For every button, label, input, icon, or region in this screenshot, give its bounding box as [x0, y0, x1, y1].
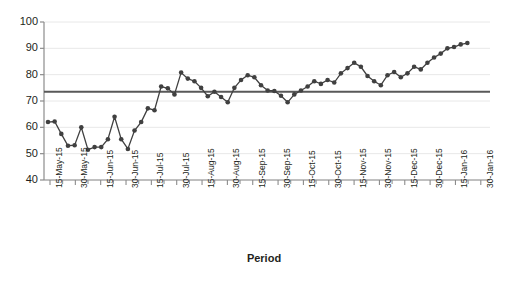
data-point	[332, 80, 337, 85]
data-point	[99, 145, 104, 150]
data-point	[199, 86, 204, 91]
data-point	[372, 79, 377, 84]
data-point	[325, 78, 330, 83]
y-axis-tick-label: 90	[8, 41, 38, 53]
data-point	[179, 70, 184, 75]
data-point	[279, 93, 284, 98]
x-axis-tick-label: 15-Nov-15	[358, 148, 368, 188]
data-point	[245, 73, 250, 78]
data-point	[146, 106, 151, 111]
x-axis-tick-label: 30-Aug-15	[231, 148, 241, 188]
data-point	[292, 92, 297, 97]
data-point	[359, 64, 364, 69]
line-chart: 405060708090100 15-May-1530-May-1515-Jun…	[0, 0, 528, 281]
data-point	[425, 61, 430, 66]
data-point	[225, 100, 230, 105]
y-axis-tick-label: 50	[8, 147, 38, 159]
y-axis-tick-label: 60	[8, 120, 38, 132]
data-point	[205, 94, 210, 99]
data-point	[385, 73, 390, 78]
data-point	[465, 41, 470, 46]
data-point	[232, 86, 237, 91]
data-point	[365, 74, 370, 79]
x-axis-tick-label: 30-May-15	[79, 147, 89, 188]
x-axis-tick-label: 15-Oct-15	[307, 150, 317, 188]
data-point	[59, 132, 64, 137]
data-point	[92, 145, 97, 150]
x-axis-tick-label: 15-Jul-15	[155, 153, 165, 188]
data-point	[139, 120, 144, 125]
data-point	[458, 42, 463, 47]
x-axis-tick-label: 15-May-15	[54, 147, 64, 188]
data-point	[352, 61, 357, 66]
data-point	[452, 45, 457, 50]
x-axis-tick-label: 30-Jul-15	[181, 153, 191, 188]
x-axis-tick-label: 30-Nov-15	[383, 148, 393, 188]
x-axis-tick-label: 15-Sep-15	[257, 148, 267, 188]
data-point	[132, 128, 137, 133]
data-point	[239, 78, 244, 83]
data-point	[319, 82, 324, 87]
x-axis-tick-label: 15-Dec-15	[409, 148, 419, 188]
data-point	[412, 64, 417, 69]
y-axis-tick-label: 100	[8, 15, 38, 27]
data-point	[252, 75, 257, 80]
x-axis-tick-label: 15-Jun-15	[105, 150, 115, 188]
data-point	[418, 67, 423, 72]
data-point	[285, 100, 290, 105]
data-point	[79, 125, 84, 130]
data-point	[185, 76, 190, 81]
data-point	[405, 71, 410, 76]
data-point	[445, 46, 450, 51]
x-axis-title: Period	[0, 252, 528, 264]
data-point	[152, 108, 157, 113]
y-axis-tick-label: 40	[8, 173, 38, 185]
x-axis-tick-label: 30-Dec-15	[434, 148, 444, 188]
y-axis-tick-label: 80	[8, 68, 38, 80]
data-point	[438, 51, 443, 56]
data-point	[265, 88, 270, 93]
data-point	[272, 89, 277, 94]
data-point	[379, 83, 384, 88]
data-point	[119, 137, 124, 142]
chart-plot-area	[0, 0, 528, 281]
data-point	[259, 83, 264, 88]
data-point	[66, 143, 71, 148]
data-point	[392, 70, 397, 75]
data-point	[112, 115, 117, 120]
data-point	[52, 119, 57, 124]
data-point	[46, 120, 51, 125]
x-axis-tick-label: 15-Jan-16	[459, 150, 469, 188]
data-point	[345, 66, 350, 71]
data-point	[166, 86, 171, 91]
x-axis-tick-label: 30-Oct-15	[333, 150, 343, 188]
x-axis-tick-label: 15-Aug-15	[206, 148, 216, 188]
x-axis-tick-label: 30-Jan-16	[485, 150, 495, 188]
y-axis-tick-label: 70	[8, 94, 38, 106]
data-point	[339, 71, 344, 76]
data-point	[305, 84, 310, 89]
x-axis-tick-label: 30-Jun-15	[130, 150, 140, 188]
data-point	[312, 79, 317, 84]
data-point	[172, 92, 177, 97]
data-point	[299, 88, 304, 93]
data-point	[219, 95, 224, 100]
data-point	[72, 143, 77, 148]
data-point	[432, 55, 437, 60]
data-point	[399, 75, 404, 80]
data-point	[212, 89, 217, 94]
data-point	[192, 79, 197, 84]
data-point	[159, 84, 164, 89]
data-point	[106, 137, 111, 142]
series-line	[48, 43, 467, 150]
x-axis-tick-label: 30-Sep-15	[282, 148, 292, 188]
